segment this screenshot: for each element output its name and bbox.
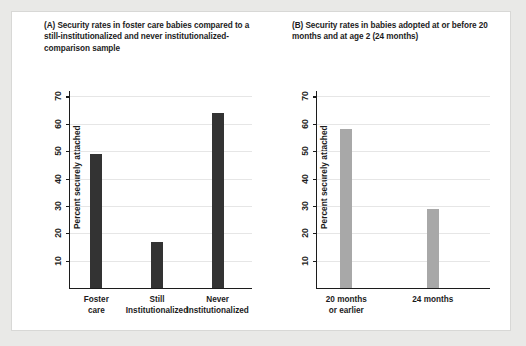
y-axis-tick-label: 40 <box>302 174 311 184</box>
y-axis-tick <box>66 96 70 97</box>
y-axis-tick-label: 50 <box>302 146 311 156</box>
y-axis-tick <box>313 151 317 152</box>
chart-b-plot-inner: 1020304050607020 months or earlier24 mon… <box>316 91 490 289</box>
x-axis-category-label: Foster care <box>84 295 109 316</box>
y-axis-tick <box>66 124 70 125</box>
y-axis-tick-label: 60 <box>302 119 311 129</box>
y-axis-tick-label: 60 <box>55 119 64 129</box>
chart-a-plot-area: Percent securely attached 10203040506070… <box>69 91 252 289</box>
gridline <box>70 151 252 152</box>
y-axis-tick-label: 10 <box>302 256 311 266</box>
figure-frame: (A) Security rates in foster care babies… <box>11 11 511 331</box>
y-axis-tick-label: 20 <box>302 228 311 238</box>
chart-b-plot-area: Percent securely attached 10203040506070… <box>316 91 490 289</box>
y-axis-tick-label: 10 <box>55 256 64 266</box>
x-axis-category-label: 24 months <box>412 295 453 306</box>
chart-panel-b: (B) Security rates in babies adopted at … <box>266 12 510 330</box>
bar <box>427 209 439 288</box>
y-axis-tick <box>313 233 317 234</box>
y-axis-tick <box>66 179 70 180</box>
bar <box>151 242 163 289</box>
y-axis-tick-label: 20 <box>55 228 64 238</box>
x-axis-category-label: Still Institutionalized <box>126 295 188 316</box>
y-axis-tick-label: 70 <box>302 92 311 102</box>
y-axis-tick <box>313 261 317 262</box>
chart-a-plot-inner: 10203040506070Foster careStill Instituti… <box>69 91 252 289</box>
y-axis-tick <box>66 151 70 152</box>
y-axis-tick <box>66 206 70 207</box>
bar <box>340 129 352 288</box>
y-axis-tick <box>313 179 317 180</box>
gridline <box>317 124 490 125</box>
y-axis-tick-label: 70 <box>55 92 64 102</box>
y-axis-tick <box>313 96 317 97</box>
chart-b-title: (B) Security rates in babies adopted at … <box>292 20 500 43</box>
x-axis-category-label: Never Institutionalized <box>186 295 248 316</box>
x-axis-category-label: 20 months or earlier <box>326 295 367 316</box>
y-axis-tick <box>66 233 70 234</box>
y-axis-tick-label: 30 <box>302 201 311 211</box>
y-axis-tick <box>313 206 317 207</box>
gridline <box>70 96 252 97</box>
chart-a-title: (A) Security rates in foster care babies… <box>44 20 260 54</box>
y-axis-tick-label: 50 <box>55 146 64 156</box>
gridline <box>317 96 490 97</box>
y-axis-tick-label: 30 <box>55 201 64 211</box>
y-axis-tick <box>313 124 317 125</box>
y-axis-tick <box>66 261 70 262</box>
bar <box>90 154 102 288</box>
chart-panel-a: (A) Security rates in foster care babies… <box>12 12 266 330</box>
y-axis-tick-label: 40 <box>55 174 64 184</box>
bar <box>212 113 224 288</box>
gridline <box>70 124 252 125</box>
